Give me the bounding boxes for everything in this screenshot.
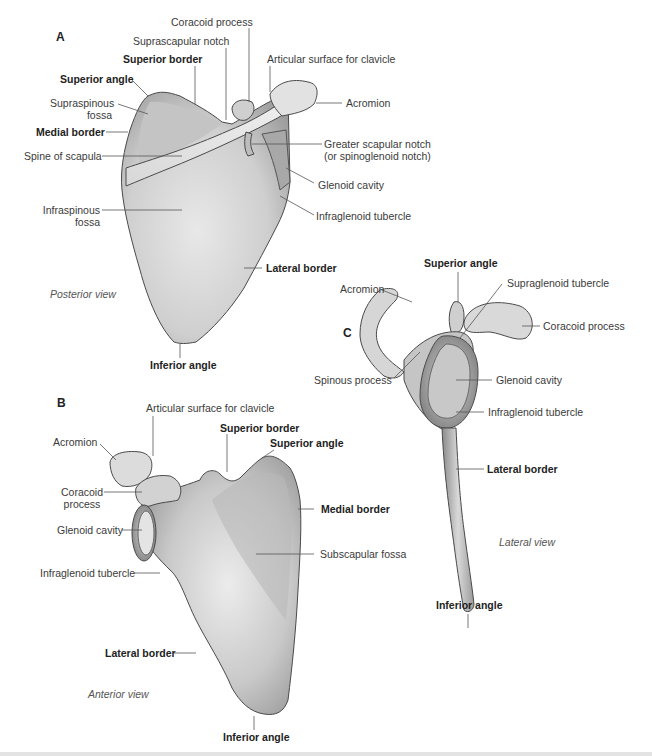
label-a-greater-notch-line1: Greater scapular notch (324, 138, 431, 150)
label-b-subscapular-fossa: Subscapular fossa (320, 548, 406, 560)
label-c-spinous-process: Spinous process (314, 374, 392, 386)
label-a-supraspinous-line2: fossa (50, 109, 112, 121)
label-a-coracoid-process: Coracoid process (171, 16, 253, 28)
label-a-medial-border: Medial border (36, 126, 105, 138)
label-c-infraglenoid-tubercle: Infraglenoid tubercle (488, 406, 583, 418)
label-b-anterior-view: Anterior view (88, 688, 149, 700)
panel-label-c: C (343, 326, 352, 340)
label-a-superior-border: Superior border (123, 53, 202, 65)
label-c-acromion: Acromion (340, 283, 384, 295)
label-a-superior-angle: Superior angle (60, 73, 134, 85)
label-c-coracoid-process: Coracoid process (543, 320, 625, 332)
label-b-superior-border: Superior border (220, 422, 299, 434)
label-b-coracoid-line2: process (56, 498, 108, 510)
label-c-superior-angle: Superior angle (424, 257, 498, 269)
scapula-figure: A B C Coracoid process Suprascapular not… (0, 0, 652, 752)
label-c-supraglenoid-tubercle: Supraglenoid tubercle (507, 277, 609, 289)
label-c-lateral-border: Lateral border (487, 463, 558, 475)
panel-label-b: B (57, 396, 66, 410)
label-a-greater-notch-line2: (or spinoglenoid notch) (324, 150, 431, 162)
label-a-supraspinous-fossa: Supraspinous fossa (50, 97, 112, 121)
label-b-coracoid-process: Coracoid process (56, 486, 108, 510)
label-a-inferior-angle: Inferior angle (150, 359, 217, 371)
label-a-suprascapular-notch: Suprascapular notch (133, 35, 229, 47)
label-b-inferior-angle: Inferior angle (223, 731, 290, 743)
posterior-view-scapula (121, 81, 317, 344)
label-a-infraspinous-fossa: Infraspinous fossa (40, 204, 100, 228)
label-a-greater-scapular-notch: Greater scapular notch (or spinoglenoid … (324, 138, 431, 162)
label-a-spine-of-scapula: Spine of scapula (24, 150, 102, 162)
label-a-infraspinous-line1: Infraspinous (40, 204, 100, 216)
label-c-lateral-view: Lateral view (499, 536, 555, 548)
label-b-medial-border: Medial border (321, 503, 390, 515)
anterior-view-scapula (110, 451, 301, 714)
label-a-infraglenoid-tubercle: Infraglenoid tubercle (316, 210, 411, 222)
panel-label-a: A (56, 30, 65, 44)
lateral-view-scapula (360, 288, 532, 611)
label-b-glenoid-cavity: Glenoid cavity (57, 524, 123, 536)
label-b-superior-angle: Superior angle (270, 437, 344, 449)
label-c-inferior-angle: Inferior angle (436, 599, 503, 611)
label-a-infraspinous-line2: fossa (40, 216, 100, 228)
label-a-acromion: Acromion (346, 97, 390, 109)
label-a-lateral-border: Lateral border (266, 262, 337, 274)
label-a-glenoid-cavity: Glenoid cavity (318, 179, 384, 191)
label-c-glenoid-cavity: Glenoid cavity (496, 374, 562, 386)
label-b-lateral-border: Lateral border (105, 647, 176, 659)
label-a-articular-surface: Articular surface for clavicle (267, 53, 395, 65)
footer-bar (0, 752, 652, 756)
label-a-supraspinous-line1: Supraspinous (50, 97, 112, 109)
label-b-articular-surface: Articular surface for clavicle (146, 402, 274, 414)
label-b-infraglenoid-tubercle: Infraglenoid tubercle (40, 567, 135, 579)
label-a-posterior-view: Posterior view (50, 288, 116, 300)
label-b-acromion: Acromion (53, 436, 97, 448)
label-b-coracoid-line1: Coracoid (56, 486, 108, 498)
